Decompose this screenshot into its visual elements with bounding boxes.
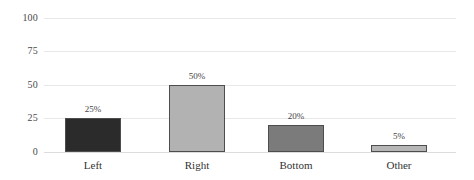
- bar-value-right: 50%: [169, 72, 225, 81]
- bar-column-other: 5% Other: [371, 0, 427, 180]
- bar-column-right: 50% Right: [169, 0, 225, 180]
- bar-left[interactable]: [65, 118, 121, 152]
- bar-value-bottom: 20%: [268, 112, 324, 121]
- bar-bottom[interactable]: [268, 125, 324, 152]
- bar-chart: 100 75 50 25 0 25% Left 50% Right 20% Bo…: [0, 0, 474, 180]
- bar-right[interactable]: [169, 85, 225, 152]
- y-tick-label-25: 25: [4, 113, 38, 123]
- category-label-other: Other: [365, 160, 433, 171]
- bar-column-left: 25% Left: [65, 0, 121, 180]
- bar-value-other: 5%: [371, 132, 427, 141]
- category-label-right: Right: [163, 160, 231, 171]
- y-tick-label-0: 0: [4, 147, 38, 157]
- y-axis: 100 75 50 25 0: [0, 0, 38, 180]
- y-tick-label-100: 100: [4, 13, 38, 23]
- y-tick-label-75: 75: [4, 46, 38, 56]
- bar-other[interactable]: [371, 145, 427, 152]
- category-label-bottom: Bottom: [262, 160, 330, 171]
- bar-value-left: 25%: [65, 105, 121, 114]
- bar-column-bottom: 20% Bottom: [268, 0, 324, 180]
- category-label-left: Left: [59, 160, 127, 171]
- y-tick-label-50: 50: [4, 80, 38, 90]
